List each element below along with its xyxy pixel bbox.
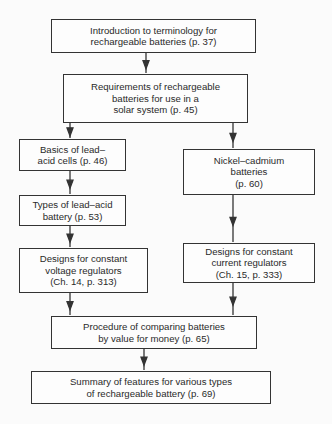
arrowhead-icon xyxy=(67,234,73,242)
arrowhead-icon xyxy=(230,297,236,305)
node-summary: Summary of features for various types of… xyxy=(31,371,271,404)
node-lead-acid-types: Types of lead–acid battery (p. 53) xyxy=(19,195,126,226)
arrowhead-icon xyxy=(141,357,147,365)
arrowhead-icon xyxy=(67,302,73,310)
node-intro: Introduction to terminology for recharge… xyxy=(51,19,256,53)
arrowhead-icon xyxy=(143,61,149,69)
node-value-for-money: Procedure of comparing batteries by valu… xyxy=(51,316,257,349)
arrowhead-icon xyxy=(230,133,236,141)
arrowhead-icon xyxy=(67,128,73,136)
node-nicad: Nickel–cadmium batteries (p. 60) xyxy=(183,149,315,195)
node-cc-regulators: Designs for constant current regulators … xyxy=(183,243,315,283)
arrowhead-icon xyxy=(230,217,236,225)
node-cv-regulators: Designs for constant voltage regulators … xyxy=(19,248,148,293)
node-requirements: Requirements of rechargeable batteries f… xyxy=(63,74,248,123)
node-lead-acid-basics: Basics of lead– acid cells (p. 46) xyxy=(19,139,126,171)
arrowhead-icon xyxy=(67,180,73,188)
